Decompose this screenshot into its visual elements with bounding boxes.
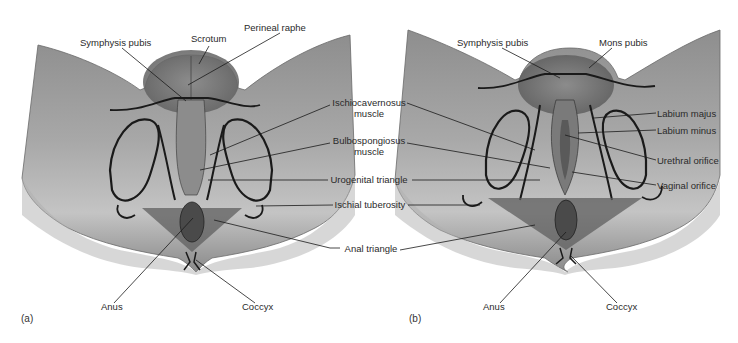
- anatomy-illustration: [0, 0, 738, 343]
- label-ischial-tuberosity: Ischial tuberosity: [330, 199, 410, 210]
- label-b-symphysis-pubis: Symphysis pubis: [457, 37, 528, 48]
- label-ischiocavernosus-muscle: Ischiocavernosus muscle: [328, 97, 410, 119]
- label-bulbospongiosus-line1: Bulbospongiosus: [328, 135, 410, 146]
- perineum-figure: Symphysis pubis Scrotum Perineal raphe A…: [0, 0, 738, 343]
- panel-b-body: [395, 30, 720, 275]
- label-b-mons-pubis: Mons pubis: [599, 37, 648, 48]
- label-ischiocavernosus-line1: Ischiocavernosus: [328, 97, 410, 108]
- panel-label-b: (b): [409, 313, 421, 324]
- label-b-urethral-orifice: Urethral orifice: [657, 155, 719, 166]
- label-a-symphysis-pubis: Symphysis pubis: [80, 37, 151, 48]
- label-bulbospongiosus-muscle: Bulbospongiosus muscle: [328, 135, 410, 157]
- label-bulbospongiosus-line2: muscle: [328, 146, 410, 157]
- label-b-vaginal-orifice: Vaginal orifice: [657, 180, 716, 191]
- label-b-coccyx: Coccyx: [606, 301, 637, 312]
- panel-label-a: (a): [21, 313, 33, 324]
- label-b-labium-majus: Labium majus: [657, 108, 716, 119]
- label-a-perineal-raphe: Perineal raphe: [244, 22, 306, 33]
- label-a-coccyx: Coccyx: [242, 301, 273, 312]
- label-anal-triangle: Anal triangle: [340, 243, 402, 254]
- panel-a-body: [22, 35, 355, 275]
- label-b-anus: Anus: [483, 301, 505, 312]
- label-a-scrotum: Scrotum: [191, 33, 226, 44]
- label-b-labium-minus: Labium minus: [657, 125, 716, 136]
- label-a-anus: Anus: [101, 301, 123, 312]
- label-urogenital-triangle: Urogenital triangle: [326, 174, 412, 185]
- label-ischiocavernosus-line2: muscle: [328, 108, 410, 119]
